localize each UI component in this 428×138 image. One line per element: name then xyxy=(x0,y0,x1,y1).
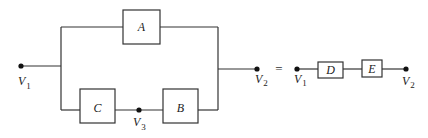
node-right-v1-label: V1 xyxy=(294,72,307,88)
block-e-label: E xyxy=(367,62,376,76)
node-v1-label: V1 xyxy=(18,74,31,91)
node-right-v2-dot xyxy=(403,66,408,71)
node-v2-label: V2 xyxy=(255,72,268,88)
node-v1-dot xyxy=(18,63,23,68)
node-right-v1-dot xyxy=(294,66,299,71)
block-a-label: A xyxy=(137,20,146,34)
block-e: E xyxy=(362,60,382,77)
block-d: D xyxy=(318,62,343,78)
node-v3-dot xyxy=(136,107,141,112)
block-c: C xyxy=(80,89,115,123)
right-network: D E V1 V2 xyxy=(294,60,415,90)
left-network: A C B V1 V3 V2 xyxy=(18,10,268,132)
equals-sign: = xyxy=(275,61,282,76)
block-b-label: B xyxy=(177,101,185,115)
block-d-label: D xyxy=(325,63,335,77)
node-v3-label: V3 xyxy=(133,115,146,132)
block-a: A xyxy=(123,10,160,44)
node-right-v2-label: V2 xyxy=(402,74,415,90)
block-c-label: C xyxy=(93,101,102,115)
node-v2-dot xyxy=(254,66,259,71)
block-b: B xyxy=(163,89,198,123)
circuit-diagram: A C B V1 V3 V2 = xyxy=(0,0,428,138)
